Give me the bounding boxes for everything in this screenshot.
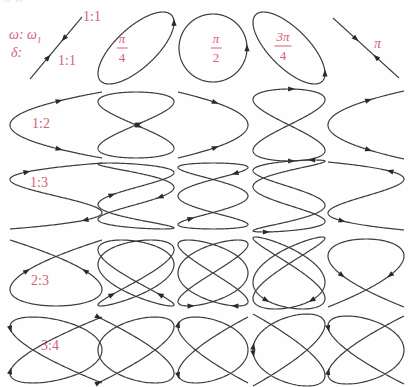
lissajous-cell-1-1-col3 (253, 12, 328, 84)
direction-arrow-icon (187, 303, 194, 308)
lissajous-curve (253, 314, 325, 386)
direction-arrow-icon (94, 313, 101, 318)
direction-arrow-icon (250, 343, 255, 350)
lissajous-cell-1-3-col2 (178, 163, 248, 229)
lissajous-curve (178, 240, 248, 306)
lissajous-cell-1-2-col1 (98, 92, 174, 158)
direction-arrow-icon (262, 296, 269, 302)
lissajous-cell-2-3-col2 (178, 240, 248, 309)
lissajous-cell-1-2-col0 (10, 92, 102, 158)
lissajous-curve (328, 316, 404, 384)
lissajous-curve (10, 317, 102, 383)
direction-arrow-icon (263, 229, 270, 234)
lissajous-cell-3-4-col4 (325, 316, 404, 384)
direction-arrow-icon (232, 170, 239, 175)
direction-arrow-icon (309, 296, 316, 302)
lissajous-cell-2-3-col1 (98, 240, 174, 306)
lissajous-curve (98, 12, 174, 84)
direction-arrow-icon (231, 303, 238, 308)
lissajous-curve (10, 240, 102, 306)
lissajous-cell-1-3-col0 (10, 163, 102, 229)
direction-arrow-icon (94, 381, 101, 386)
direction-arrow-icon (365, 99, 372, 104)
lissajous-curve (98, 317, 174, 383)
direction-arrow-icon (7, 367, 12, 374)
lissajous-cell-1-1-col0 (30, 17, 82, 79)
direction-arrow-icon (244, 44, 249, 51)
lissajous-cell-3-4-col0 (7, 317, 102, 383)
lissajous-curve (253, 89, 325, 161)
lissajous-figure: ω: ω ω: ω1 δ: 1:1 1:1 1:2 1:3 2:3 3:4 π … (0, 0, 409, 387)
direction-arrow-icon (211, 99, 218, 104)
lissajous-cell-1-2-col2 (178, 92, 248, 158)
lissajous-curve (178, 317, 248, 383)
lissajous-cell-3-4-col2 (175, 317, 248, 383)
direction-arrow-icon (108, 293, 115, 299)
direction-arrow-icon (108, 194, 115, 199)
lissajous-cell-1-3-col3 (253, 157, 325, 234)
lissajous-curve (179, 14, 247, 82)
lissajous-curve (333, 18, 399, 78)
direction-arrow-icon (338, 217, 345, 222)
curves-canvas (0, 0, 409, 387)
direction-arrow-icon (322, 70, 327, 77)
direction-arrow-icon (157, 293, 164, 299)
lissajous-curve (253, 160, 325, 232)
direction-arrow-icon (187, 217, 194, 222)
lissajous-cell-1-2-col3 (253, 86, 325, 163)
direction-arrow-icon (387, 170, 394, 175)
lissajous-cell-2-3-col3 (253, 237, 325, 309)
direction-arrow-icon (211, 146, 218, 151)
direction-arrow-icon (308, 157, 315, 162)
direction-arrow-icon (23, 269, 30, 275)
lissajous-cell-1-2-col4 (328, 91, 404, 159)
direction-arrow-icon (365, 146, 372, 151)
lissajous-cell-1-1-col2 (179, 14, 250, 82)
direction-arrow-icon (7, 325, 12, 332)
direction-arrow-icon (250, 350, 255, 357)
direction-arrow-icon (55, 99, 62, 104)
lissajous-cell-3-4-col1 (94, 313, 174, 386)
lissajous-cell-2-3-col0 (10, 240, 102, 306)
lissajous-cell-1-3-col1 (98, 163, 174, 229)
direction-arrow-icon (171, 19, 176, 26)
lissajous-curve (253, 12, 325, 84)
lissajous-curve (30, 17, 82, 79)
lissajous-cell-1-1-col1 (98, 12, 177, 84)
lissajous-cell-2-3-col4 (328, 239, 404, 307)
lissajous-cell-1-3-col4 (328, 162, 404, 230)
direction-arrow-icon (157, 193, 164, 198)
lissajous-cell-1-1-col4 (333, 18, 399, 78)
direction-arrow-icon (82, 269, 89, 275)
direction-arrow-icon (288, 86, 295, 91)
lissajous-cell-3-4-col3 (250, 314, 325, 386)
lissajous-curve (328, 239, 404, 307)
direction-arrow-icon (55, 146, 62, 151)
